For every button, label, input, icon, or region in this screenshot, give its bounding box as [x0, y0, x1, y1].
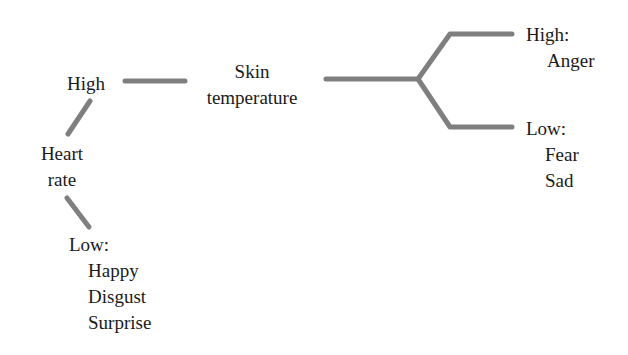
heart-rate-line2: rate — [26, 167, 98, 193]
node-skin-temperature: Skin temperature — [196, 59, 308, 111]
edge-skin-to-high — [326, 34, 512, 79]
outcome-disgust: Disgust — [88, 284, 151, 310]
node-heart-rate: Heart rate — [26, 141, 98, 193]
node-skin-low: Low: Fear Sad — [526, 116, 579, 194]
node-heart-high: High — [67, 71, 105, 97]
skin-high-label: High: — [526, 22, 594, 48]
node-skin-high: High: Anger — [526, 22, 594, 74]
heart-low-label: Low: — [69, 232, 151, 258]
edge-skin-to-low — [418, 79, 512, 127]
skin-low-label: Low: — [526, 116, 579, 142]
skin-temp-line2: temperature — [196, 85, 308, 111]
emotion-decision-tree: Heart rate High Low: Happy Disgust Surpr… — [0, 0, 628, 355]
outcome-anger: Anger — [547, 48, 594, 74]
edge-heart-to-high — [68, 101, 90, 134]
skin-temp-line1: Skin — [196, 59, 308, 85]
heart-rate-line1: Heart — [26, 141, 98, 167]
node-heart-low: Low: Happy Disgust Surprise — [69, 232, 151, 336]
outcome-sad: Sad — [545, 168, 579, 194]
outcome-surprise: Surprise — [88, 310, 151, 336]
outcome-fear: Fear — [545, 142, 579, 168]
edge-heart-to-low — [67, 198, 89, 227]
outcome-happy: Happy — [88, 258, 151, 284]
